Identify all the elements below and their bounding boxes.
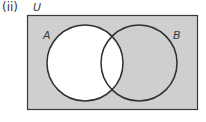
venn-diagram xyxy=(0,0,206,122)
set-a-label: A xyxy=(43,30,51,41)
set-b-label: B xyxy=(173,30,181,41)
